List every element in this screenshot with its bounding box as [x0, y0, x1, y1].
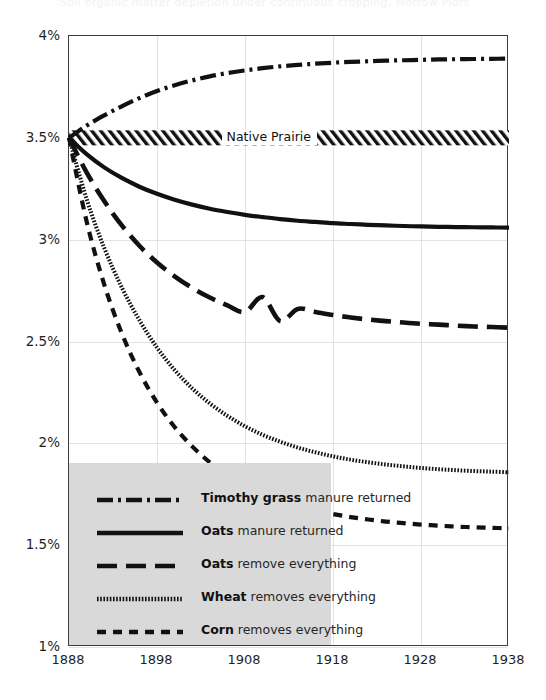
x-tick-label: 1898 — [139, 652, 172, 667]
legend-line-sample — [97, 596, 183, 600]
legend-item[interactable]: Wheat removes everything — [69, 582, 331, 612]
legend-line-sample — [97, 530, 183, 534]
legend-label-crop: Wheat — [201, 589, 247, 604]
legend-label: Oats manure returned — [201, 523, 344, 538]
cropped-title: Soil organic matter depletion under cont… — [60, 0, 520, 14]
legend-item[interactable]: Oats manure returned — [69, 516, 331, 546]
legend-label-treatment: remove everything — [233, 556, 356, 571]
legend-line-sample — [97, 563, 183, 567]
legend-label: Corn removes everything — [201, 622, 363, 637]
x-tick-label: 1888 — [51, 652, 84, 667]
legend-label: Wheat removes everything — [201, 589, 376, 604]
legend-item[interactable]: Corn removes everything — [69, 615, 331, 645]
x-tick-label: 1938 — [491, 652, 524, 667]
y-tick-label: 3.5% — [26, 129, 60, 145]
chart-container: Soil organic matter depletion under cont… — [0, 0, 546, 700]
y-tick-label: 2.5% — [26, 333, 60, 349]
chart-legend: Timothy grass manure returnedOats manure… — [69, 463, 331, 645]
y-tick-label: 2% — [39, 434, 60, 450]
series-line — [69, 138, 509, 472]
legend-label-crop: Oats — [201, 523, 233, 538]
legend-label-treatment: removes everything — [234, 622, 363, 637]
legend-line-sample — [97, 629, 183, 633]
series-line — [69, 138, 509, 328]
gridline-horizontal — [69, 647, 507, 648]
legend-item[interactable]: Timothy grass manure returned — [69, 483, 331, 513]
x-tick-label: 1918 — [315, 652, 348, 667]
legend-line-sample — [97, 497, 183, 501]
legend-label-treatment: manure returned — [233, 523, 343, 538]
legend-label-crop: Timothy grass — [201, 490, 301, 505]
legend-label-crop: Corn — [201, 622, 234, 637]
series-line — [69, 59, 509, 138]
y-axis-labels: 1%1.5%2%2.5%3%3.5%4% — [0, 0, 60, 700]
native-prairie-label: Native Prairie — [222, 129, 317, 145]
legend-item[interactable]: Oats remove everything — [69, 549, 331, 579]
x-tick-label: 1908 — [227, 652, 260, 667]
legend-label-treatment: removes everything — [247, 589, 376, 604]
legend-label-crop: Oats — [201, 556, 233, 571]
y-tick-label: 1.5% — [26, 536, 60, 552]
y-tick-label: 3% — [39, 231, 60, 247]
legend-label-treatment: manure returned — [301, 490, 411, 505]
legend-label: Oats remove everything — [201, 556, 356, 571]
series-line — [69, 138, 509, 228]
legend-label: Timothy grass manure returned — [201, 490, 411, 505]
y-tick-label: 4% — [39, 27, 60, 43]
x-tick-label: 1928 — [403, 652, 436, 667]
